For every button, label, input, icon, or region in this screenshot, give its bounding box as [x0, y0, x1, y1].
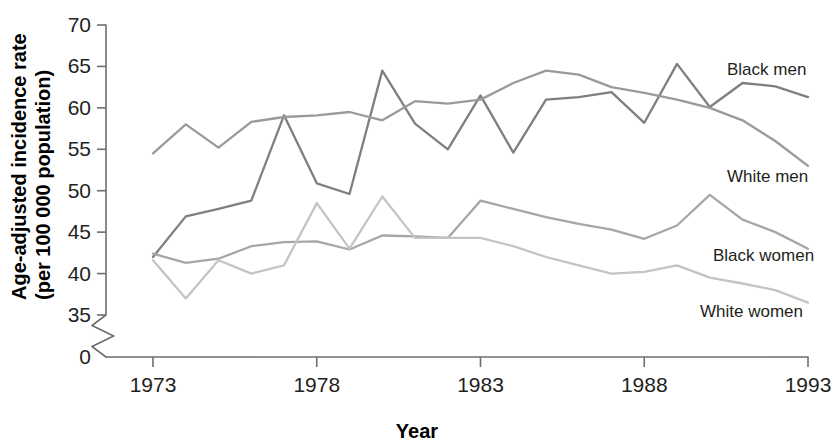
y-tick-label: 50 — [68, 179, 91, 202]
x-tick-label: 1983 — [457, 373, 504, 396]
y-tick-label: 60 — [68, 96, 91, 119]
y-tick-label: 35 — [68, 303, 91, 326]
x-axis-title: Year — [396, 420, 438, 442]
y-tick-label: 70 — [68, 13, 91, 36]
series-label-layer: Black menWhite menBlack womenWhite women — [700, 60, 814, 321]
series-line-white-women — [153, 197, 808, 303]
y-tick-label: 40 — [68, 262, 91, 285]
series-label-white-men: White men — [727, 167, 808, 186]
y-tick-label: 55 — [68, 137, 91, 160]
series-label-black-women: Black women — [713, 246, 814, 265]
series-line-white-men — [153, 71, 808, 166]
line-chart: Age-adjusted incidence rate (per 100 000… — [0, 0, 834, 446]
y-axis-title-line2: (per 100 000 population) — [32, 70, 54, 300]
y-tick-label-zero: 0 — [79, 345, 91, 368]
x-tick-label: 1978 — [293, 373, 340, 396]
y-tick-label: 45 — [68, 220, 91, 243]
x-tick-label: 1988 — [621, 373, 668, 396]
y-axis-title: Age-adjusted incidence rate (per 100 000… — [8, 33, 54, 300]
series-line-black-women — [153, 195, 808, 263]
chart-canvas: Age-adjusted incidence rate (per 100 000… — [0, 0, 834, 446]
series-line-black-men — [153, 64, 808, 257]
tick-label-layer: 3540455055606570019731978198319881993 — [68, 13, 832, 396]
x-tick-label: 1993 — [785, 373, 832, 396]
x-tick-label: 1973 — [130, 373, 177, 396]
series-label-white-women: White women — [700, 302, 803, 321]
series-layer — [153, 64, 808, 303]
y-axis-title-line1: Age-adjusted incidence rate — [8, 33, 30, 300]
y-tick-label: 65 — [68, 54, 91, 77]
series-label-black-men: Black men — [727, 60, 806, 79]
